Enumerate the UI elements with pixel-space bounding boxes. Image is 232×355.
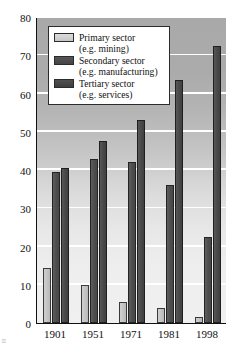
legend-swatch-tertiary-icon (54, 79, 74, 88)
legend-sublabel-primary: (e.g. mining) (79, 43, 165, 54)
legend-row-tertiary: Tertiary sector (54, 77, 165, 89)
x-axis-tick-labels: 19011951197119811998 (36, 328, 226, 352)
bar-1901-secondary (52, 172, 61, 323)
bar-1951-secondary (90, 159, 99, 323)
scan-artifact: ≡ (1, 337, 13, 353)
x-tick-1981: 1981 (158, 328, 180, 340)
bar-1998-secondary (204, 237, 213, 323)
y-tick-60: 60 (20, 89, 31, 100)
bar-1971-primary (119, 302, 128, 323)
x-tick-1951: 1951 (82, 328, 104, 340)
legend-row-primary: Primary sector (54, 31, 165, 43)
legend-label-secondary: Secondary sector (79, 55, 145, 66)
legend-label-primary: Primary sector (79, 32, 135, 43)
y-tick-30: 30 (20, 204, 31, 215)
y-tick-0: 0 (26, 319, 32, 330)
legend-sublabel-secondary: (e.g. manufacturing) (79, 66, 165, 77)
x-tick-1998: 1998 (196, 328, 218, 340)
bar-1971-secondary (128, 162, 137, 323)
bar-1981-secondary (166, 185, 175, 323)
legend-sublabel-tertiary: (e.g. services) (79, 89, 165, 100)
x-tick-1901: 1901 (44, 328, 66, 340)
bar-chart-figure: Employment percentages of total 01020304… (0, 0, 232, 355)
legend-entry-tertiary: Tertiary sector(e.g. services) (54, 77, 165, 100)
bar-1951-tertiary (99, 141, 108, 323)
legend-label-tertiary: Tertiary sector (79, 78, 135, 89)
bar-1901-primary (43, 268, 52, 323)
bar-1981-primary (157, 308, 166, 323)
legend-swatch-secondary-icon (54, 56, 74, 65)
y-tick-20: 20 (20, 242, 31, 253)
bar-1998-tertiary (213, 46, 222, 323)
y-axis-tick-labels: 01020304050607080 (0, 0, 34, 355)
bar-1951-primary (81, 285, 90, 323)
bar-1971-tertiary (137, 120, 146, 323)
y-tick-80: 80 (20, 13, 31, 24)
bar-group-1998 (195, 18, 222, 323)
bar-1901-tertiary (61, 168, 70, 323)
legend-row-secondary: Secondary sector (54, 54, 165, 66)
y-tick-10: 10 (20, 280, 31, 291)
chart-legend: Primary sector(e.g. mining)Secondary sec… (48, 26, 170, 105)
legend-entry-primary: Primary sector(e.g. mining) (54, 31, 165, 54)
legend-entry-secondary: Secondary sector(e.g. manufacturing) (54, 54, 165, 77)
bar-1998-primary (195, 317, 204, 323)
y-tick-40: 40 (20, 166, 31, 177)
y-tick-50: 50 (20, 127, 31, 138)
bar-1981-tertiary (175, 80, 184, 323)
x-tick-1971: 1971 (120, 328, 142, 340)
y-tick-70: 70 (20, 51, 31, 62)
legend-swatch-primary-icon (54, 33, 74, 42)
